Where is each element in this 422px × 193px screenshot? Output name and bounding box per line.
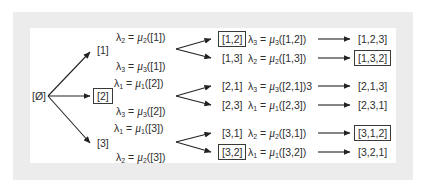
node-3-2: [3,2] [218, 144, 246, 160]
annotation-lambda3-1: λ3 = μ3([1]) [116, 60, 165, 72]
arrow-1-to-12 [176, 39, 211, 49]
annotation-lambda2-3: λ2 = μ2([3]) [116, 151, 165, 163]
annotation-level2-3: λ3 = μ3([2,1])3 [248, 80, 312, 92]
annotation-lambda1-2: λ1 = μ1([2]) [114, 77, 163, 89]
result-2-1-3: [2,1,3] [358, 80, 387, 92]
result-3-2-1: [3,2,1] [358, 146, 387, 158]
annotation-lambda1-3: λ1 = μ1([3]) [114, 122, 163, 134]
node-2: [2] [93, 88, 113, 104]
arrow-1-to-13 [176, 49, 211, 58]
result-1-2-3: [1,2,3] [358, 33, 387, 45]
result-1-3-2: [1,3,2] [354, 50, 391, 66]
annotation-lambda2-1: λ2 = μ2([1]) [116, 31, 165, 43]
result-2-3-1: [2,3,1] [358, 99, 387, 111]
arrow-2-to-21 [176, 86, 211, 96]
result-3-1-2: [3,1,2] [354, 125, 391, 141]
annotation-level2-1: λ3 = μ3([1,2]) [248, 33, 306, 45]
annotation-level2-2: λ2 = μ2([1,3]) [248, 52, 306, 64]
annotation-lambda3-2: λ3 = μ3([2]) [116, 105, 165, 117]
arrow-2-to-23 [176, 96, 211, 105]
arrows-layer [0, 0, 422, 193]
node-1: [1] [97, 44, 109, 56]
node-2-1: [2,1] [222, 80, 242, 92]
node-2-3: [2,3] [222, 99, 242, 111]
annotation-level2-4: λ1 = μ1([2,3]) [248, 99, 306, 111]
node-1-2: [1,2] [218, 31, 246, 47]
node-3: [3] [97, 137, 109, 149]
node-3-1: [3,1] [222, 127, 242, 139]
annotation-level2-6: λ1 = μ1([3,2]) [248, 146, 306, 158]
annotation-level2-5: λ2 = μ2([3,1]) [248, 127, 306, 139]
arrow-3-to-31 [176, 133, 211, 142]
root-node: [Ø] [32, 90, 46, 102]
arrow-3-to-32 [176, 142, 211, 152]
arrow-root-to-3 [48, 96, 90, 143]
node-1-3: [1,3] [222, 52, 242, 64]
arrow-root-to-1 [48, 52, 90, 96]
